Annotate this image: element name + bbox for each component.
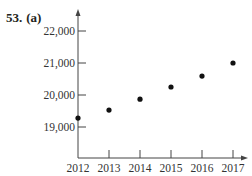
x-tick-label: 2012 (67, 162, 90, 174)
scatter-chart: 19,00020,00021,00022,000 201220132014201… (0, 0, 252, 176)
y-axis-arrow-icon (76, 9, 81, 16)
data-point (199, 74, 204, 79)
x-axis-arrow-icon (241, 156, 248, 161)
data-point (168, 84, 173, 89)
x-tick-label: 2013 (98, 162, 121, 174)
data-point (137, 97, 142, 102)
x-axis-ticks: 201220132014201520162017 (67, 150, 245, 174)
axes (76, 9, 249, 161)
data-point (106, 107, 111, 112)
data-point (230, 60, 235, 65)
y-tick-label: 19,000 (43, 121, 75, 134)
x-tick-label: 2016 (191, 162, 214, 174)
data-points (75, 60, 235, 120)
y-tick-label: 22,000 (43, 25, 75, 38)
y-tick-label: 21,000 (43, 57, 75, 70)
x-tick-label: 2015 (160, 162, 183, 174)
y-tick-label: 20,000 (43, 89, 75, 102)
x-tick-label: 2017 (222, 162, 245, 174)
x-tick-label: 2014 (129, 162, 152, 174)
data-point (75, 115, 80, 120)
